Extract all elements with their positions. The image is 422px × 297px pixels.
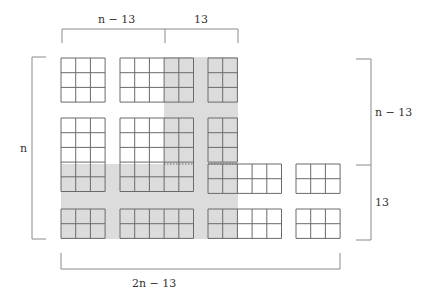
grid-block-r1-g1 (61, 58, 105, 102)
label-right-n-minus-13: n − 13 (375, 106, 412, 119)
top-bracket (62, 29, 238, 43)
label-top-13: 13 (194, 13, 208, 26)
grid-block-r2-g4 (296, 164, 340, 193)
left-bracket (32, 57, 46, 239)
label-top-n-minus-13: n − 13 (98, 13, 135, 26)
bottom-bracket (61, 253, 340, 269)
right-bracket (356, 59, 371, 240)
grid-partition-diagram: n − 13 13 n n − 13 13 2n − 13 (0, 0, 422, 297)
label-bottom-2n-minus-13: 2n − 13 (132, 277, 176, 290)
diagram-canvas (0, 0, 422, 297)
label-right-13: 13 (375, 196, 389, 209)
label-left-n: n (20, 142, 27, 155)
grid-block-r3-g4 (296, 209, 340, 238)
